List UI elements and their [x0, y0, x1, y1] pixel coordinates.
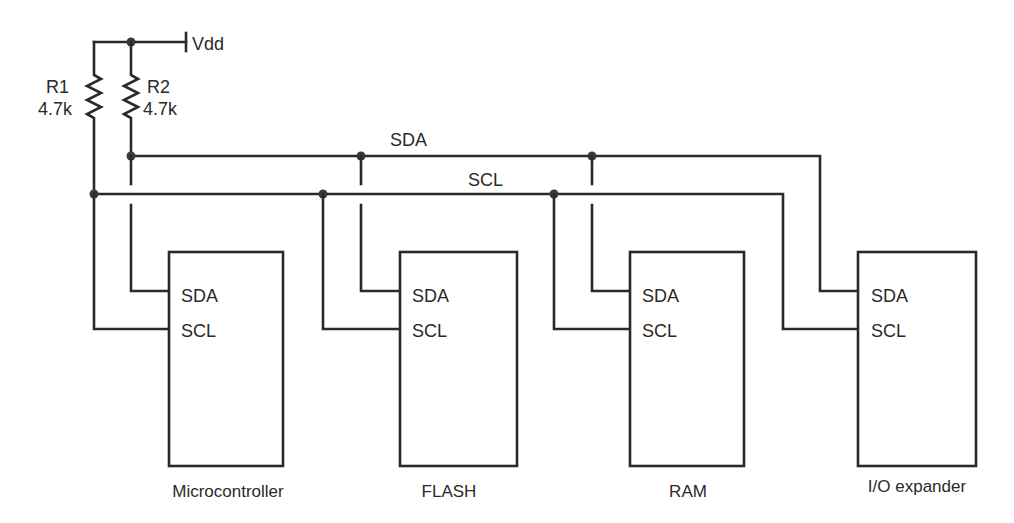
device-io-expander: SDA SCL I/O expander	[858, 252, 976, 496]
io-expander-sda-pin: SDA	[871, 286, 908, 306]
device-microcontroller: SDA SCL Microcontroller	[169, 252, 284, 501]
sda-bus-label: SDA	[390, 130, 427, 150]
flash-label: FLASH	[422, 482, 477, 501]
io-expander-label: I/O expander	[868, 477, 967, 496]
microcontroller-label: Microcontroller	[172, 482, 284, 501]
vdd-label: Vdd	[192, 34, 224, 54]
flash-connections	[323, 156, 400, 329]
resistor-r1: R1 4.7k	[38, 42, 101, 194]
device-ram: SDA SCL RAM	[630, 252, 744, 501]
device-flash: SDA SCL FLASH	[400, 252, 517, 501]
i2c-schematic: Vdd R1 4.7k R2 4.7k SDA SCL	[0, 0, 1014, 523]
io-expander-scl-pin: SCL	[871, 321, 906, 341]
microcontroller-scl-pin: SCL	[181, 321, 216, 341]
r1-value: 4.7k	[38, 99, 73, 119]
ram-label: RAM	[669, 482, 707, 501]
microcontroller-connections	[94, 156, 169, 329]
flash-scl-pin: SCL	[412, 321, 447, 341]
r2-value: 4.7k	[143, 99, 178, 119]
resistor-r2: R2 4.7k	[124, 42, 178, 156]
flash-sda-pin: SDA	[412, 286, 449, 306]
r1-name: R1	[46, 77, 69, 97]
ram-scl-pin: SCL	[642, 321, 677, 341]
microcontroller-sda-pin: SDA	[181, 286, 218, 306]
ram-sda-pin: SDA	[642, 286, 679, 306]
ram-connections	[554, 156, 630, 329]
vdd-rail: Vdd	[94, 33, 224, 54]
r2-name: R2	[147, 77, 170, 97]
scl-bus-label: SCL	[468, 170, 503, 190]
